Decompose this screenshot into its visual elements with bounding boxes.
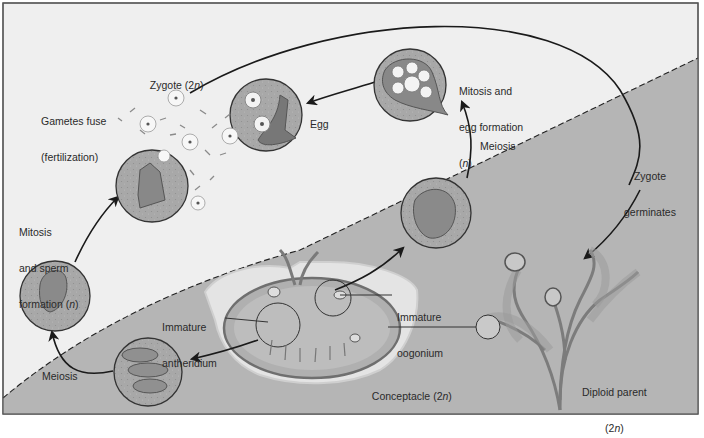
label-zygote: Zygote (2n) [144,67,204,91]
label-mitosis-egg-formation: Mitosis and egg formation (n) [459,61,523,181]
label-meiosis-right: Meiosis [480,140,516,152]
label-egg: Egg [310,118,329,130]
label-diploid-parent: Diploid parent (2n) [582,362,647,438]
stage-circle-fertilization [116,150,188,222]
label-gametes-fuse: Gametes fuse (fertilization) [41,91,106,175]
label-meiosis-left: Meiosis [42,370,78,382]
label-immature-antheridium: Immature antheridium [162,297,217,381]
label-mitosis-sperm-formation: Mitosis and sperm formation (n) [19,202,79,322]
label-immature-oogonium: Immature oogonium [397,287,443,371]
stage-circle-meiosis-female [401,178,471,248]
label-conceptacle: Conceptacle (2n) [366,378,452,402]
stage-circle-egg [230,79,302,151]
label-zygote-germinates: Zygote germinates [624,146,676,230]
